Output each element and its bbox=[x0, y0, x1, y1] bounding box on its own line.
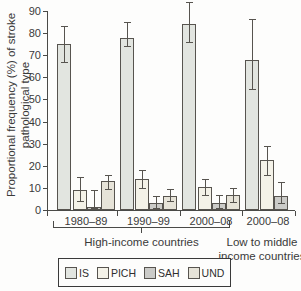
sah-swatch bbox=[144, 267, 156, 279]
stroke-pathological-type-chart: Proportional frequency (%) of stroke pat… bbox=[0, 0, 301, 291]
error-bar-is-3 bbox=[252, 19, 253, 90]
error-bar-cap-sah-3-high bbox=[278, 182, 285, 183]
error-bar-cap-und-2-high bbox=[230, 188, 237, 189]
error-bar-sah-2 bbox=[219, 195, 220, 208]
error-bar-cap-is-1-high bbox=[124, 22, 131, 23]
error-bar-cap-und-0-high bbox=[105, 175, 112, 176]
high-income-countries-label: High-income countries bbox=[60, 236, 223, 248]
error-bar-sah-1 bbox=[156, 196, 157, 208]
error-bar-cap-sah-1-low bbox=[153, 208, 160, 209]
y-tick-label-20: 20 bbox=[10, 160, 41, 172]
y-tick-label-0: 0 bbox=[10, 204, 41, 216]
y-tick-90 bbox=[43, 11, 47, 12]
error-bar-sah-0 bbox=[94, 190, 95, 208]
is-swatch bbox=[65, 267, 77, 279]
error-bar-und-0 bbox=[108, 175, 109, 189]
error-bar-cap-sah-0-high bbox=[91, 190, 98, 191]
legend-label-sah: SAH bbox=[158, 267, 180, 279]
y-tick-30 bbox=[43, 144, 47, 145]
error-bar-cap-sah-2-low bbox=[216, 208, 223, 209]
y-tick-label-50: 50 bbox=[10, 93, 41, 105]
error-bar-is-2 bbox=[189, 2, 190, 42]
x-group-label-3: 2000–08 bbox=[228, 215, 301, 227]
error-bar-cap-is-3-high bbox=[249, 19, 256, 20]
y-tick-40 bbox=[43, 122, 47, 123]
error-bar-is-0 bbox=[64, 26, 65, 61]
error-bar-pich-2 bbox=[205, 179, 206, 194]
error-bar-und-2 bbox=[233, 188, 234, 202]
error-bar-pich-1 bbox=[142, 170, 143, 188]
error-bar-cap-pich-0-low bbox=[77, 201, 84, 202]
y-tick-label-40: 40 bbox=[10, 116, 41, 128]
y-tick-label-10: 10 bbox=[10, 182, 41, 194]
low-to-middle-income-label-line1: Low to middle bbox=[216, 236, 301, 250]
error-bar-cap-is-1-low bbox=[124, 46, 131, 47]
error-bar-cap-pich-1-low bbox=[139, 188, 146, 189]
plot-area: 0102030405060708090 bbox=[47, 0, 296, 211]
y-tick-label-70: 70 bbox=[10, 49, 41, 61]
legend-label-und: UND bbox=[202, 267, 225, 279]
y-axis-line bbox=[47, 11, 48, 211]
error-bar-cap-sah-2-high bbox=[216, 195, 223, 196]
y-tick-label-60: 60 bbox=[10, 71, 41, 83]
error-bar-cap-und-1-low bbox=[167, 201, 174, 202]
error-bar-cap-pich-3-high bbox=[264, 146, 271, 147]
error-bar-pich-0 bbox=[80, 177, 81, 201]
error-bar-sah-3 bbox=[281, 182, 282, 203]
y-tick-80 bbox=[43, 33, 47, 34]
y-tick-50 bbox=[43, 99, 47, 100]
error-bar-cap-is-3-low bbox=[249, 89, 256, 90]
error-bar-cap-is-2-low bbox=[186, 42, 193, 43]
legend-label-is: IS bbox=[79, 267, 89, 279]
error-bar-cap-is-2-high bbox=[186, 2, 193, 3]
y-tick-label-30: 30 bbox=[10, 138, 41, 150]
error-bar-cap-pich-0-high bbox=[77, 177, 84, 178]
legend-item-sah: SAH bbox=[144, 267, 180, 279]
error-bar-cap-pich-2-high bbox=[202, 179, 209, 180]
error-bar-is-1 bbox=[127, 22, 128, 46]
y-tick-10 bbox=[43, 188, 47, 189]
bar-is-1 bbox=[120, 38, 134, 210]
bar-is-2 bbox=[182, 24, 196, 210]
error-bar-cap-sah-3-low bbox=[278, 203, 285, 204]
y-tick-70 bbox=[43, 55, 47, 56]
error-bar-cap-sah-0-low bbox=[91, 208, 98, 209]
y-tick-label-90: 90 bbox=[10, 5, 41, 17]
error-bar-cap-is-0-low bbox=[61, 62, 68, 63]
error-bar-cap-und-0-low bbox=[105, 189, 112, 190]
legend: ISPICHSAHUND bbox=[58, 258, 231, 287]
legend-item-is: IS bbox=[65, 267, 89, 279]
error-bar-cap-pich-1-high bbox=[139, 170, 146, 171]
error-bar-cap-und-2-low bbox=[230, 202, 237, 203]
error-bar-cap-is-0-high bbox=[61, 26, 68, 27]
error-bar-pich-3 bbox=[267, 146, 268, 175]
pich-swatch bbox=[97, 267, 109, 279]
x-axis-line bbox=[47, 210, 295, 211]
high-income-bracket-center-tick bbox=[141, 227, 142, 233]
error-bar-cap-pich-2-low bbox=[202, 195, 209, 196]
y-tick-label-80: 80 bbox=[10, 27, 41, 39]
error-bar-cap-pich-3-low bbox=[264, 175, 271, 176]
legend-item-und: UND bbox=[188, 267, 225, 279]
legend-label-pich: PICH bbox=[111, 267, 136, 279]
legend-item-pich: PICH bbox=[97, 267, 136, 279]
y-tick-20 bbox=[43, 166, 47, 167]
error-bar-cap-sah-1-high bbox=[153, 196, 160, 197]
error-bar-cap-und-1-high bbox=[167, 189, 174, 190]
y-tick-60 bbox=[43, 77, 47, 78]
bar-is-0 bbox=[57, 44, 71, 210]
und-swatch bbox=[188, 267, 200, 279]
error-bar-und-1 bbox=[170, 189, 171, 201]
